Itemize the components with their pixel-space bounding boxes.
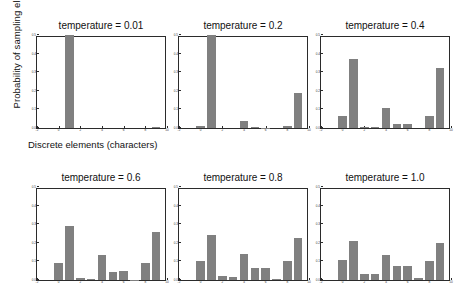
plot-area: 0.00.10.20.30.40.5-20246810: [36, 36, 166, 129]
y-tick-mark: [179, 34, 181, 35]
bar: [425, 261, 434, 280]
x-tick-label: 2: [363, 128, 365, 132]
x-tick-label: 8: [286, 280, 288, 284]
x-tick-mark: [451, 126, 452, 128]
bar: [294, 93, 303, 128]
bar: [425, 116, 434, 128]
bar: [360, 127, 369, 128]
bar-series: [321, 37, 449, 128]
y-axis-label: Probability of sampling element: [11, 0, 22, 109]
bar: [338, 260, 347, 280]
plot-area: 0.00.10.20.30.40.5-20246810: [178, 36, 308, 129]
x-tick-label: 0: [342, 128, 344, 132]
bar: [436, 68, 445, 128]
panel-title: temperature = 0.2: [178, 20, 308, 31]
panel-temperature-0.8: temperature = 0.80.00.10.20.30.40.5-2024…: [178, 172, 308, 281]
bar: [152, 127, 161, 128]
bar: [152, 232, 161, 280]
bar: [283, 261, 292, 280]
bar: [109, 272, 118, 280]
x-tick-label: 2: [221, 280, 223, 284]
bar: [196, 261, 205, 280]
panel-temperature-0.6: temperature = 0.60.00.10.20.30.40.5-2024…: [36, 172, 166, 281]
panel-title: temperature = 0.8: [178, 172, 308, 183]
bar: [218, 276, 227, 280]
y-tick-mark: [179, 186, 181, 187]
x-tick-label: 10: [165, 280, 168, 284]
bar: [119, 271, 128, 280]
x-tick-label: -2: [320, 128, 323, 132]
bar: [65, 226, 74, 280]
bar: [76, 278, 85, 280]
panel-title: temperature = 0.6: [36, 172, 166, 183]
x-tick-mark: [309, 126, 310, 128]
bar: [338, 116, 347, 128]
x-tick-label: 10: [307, 280, 310, 284]
bar: [393, 124, 402, 128]
bar-series: [321, 189, 449, 280]
bar-series: [37, 189, 165, 280]
bar: [54, 263, 63, 280]
panel-temperature-1: temperature = 1.00.00.10.20.30.40.5-2024…: [320, 172, 450, 281]
bar: [349, 241, 358, 280]
plot-area: 0.00.10.20.30.40.5-20246810: [320, 188, 450, 281]
y-tick-mark: [321, 34, 323, 35]
bar: [207, 235, 216, 280]
bar: [436, 243, 445, 280]
x-tick-label: 10: [165, 128, 168, 132]
x-tick-mark: [167, 278, 168, 280]
x-tick-label: 0: [342, 280, 344, 284]
x-tick-label: 6: [123, 280, 125, 284]
x-tick-label: 4: [385, 128, 387, 132]
x-tick-label: -2: [178, 280, 181, 284]
bar-series: [179, 189, 307, 280]
bar: [272, 279, 281, 280]
x-tick-label: -2: [36, 128, 39, 132]
panel-title: temperature = 1.0: [320, 172, 450, 183]
bar: [240, 254, 249, 280]
panel-temperature-0.4: temperature = 0.40.00.10.20.30.40.5-2024…: [320, 20, 450, 129]
bar: [229, 277, 238, 280]
bar: [403, 266, 412, 281]
x-tick-label: 2: [221, 128, 223, 132]
x-tick-label: 0: [200, 128, 202, 132]
bar: [251, 127, 260, 128]
x-tick-label: 4: [101, 128, 103, 132]
bar: [141, 263, 150, 280]
x-tick-label: 6: [123, 128, 125, 132]
bar: [98, 255, 107, 280]
x-tick-label: 4: [243, 280, 245, 284]
bar: [414, 278, 423, 280]
x-tick-label: 4: [101, 280, 103, 284]
bar: [65, 35, 74, 128]
bar-series: [37, 37, 165, 128]
x-tick-label: 0: [200, 280, 202, 284]
x-tick-label: 8: [144, 128, 146, 132]
plot-area: 0.00.10.20.30.40.5-20246810: [178, 188, 308, 281]
x-tick-label: 8: [144, 280, 146, 284]
y-tick-mark: [37, 34, 39, 35]
y-axis-label-container: Probability of sampling element: [0, 18, 22, 138]
bar: [87, 279, 96, 280]
x-tick-label: -2: [178, 128, 181, 132]
x-tick-label: -2: [36, 280, 39, 284]
x-tick-mark: [309, 278, 310, 280]
x-tick-label: 6: [407, 280, 409, 284]
bar: [283, 126, 292, 128]
x-tick-label: 2: [79, 280, 81, 284]
x-tick-label: -2: [320, 280, 323, 284]
x-tick-label: 10: [449, 128, 452, 132]
x-tick-mark: [451, 278, 452, 280]
x-tick-label: 10: [307, 128, 310, 132]
bar: [251, 268, 260, 280]
x-tick-label: 8: [428, 128, 430, 132]
bar: [207, 35, 216, 128]
bar: [349, 59, 358, 128]
bar: [382, 108, 391, 128]
figure-canvas: Probability of sampling element Discrete…: [0, 0, 461, 306]
bar: [261, 268, 270, 280]
x-tick-label: 0: [58, 128, 60, 132]
panel-title: temperature = 0.4: [320, 20, 450, 31]
x-axis-label: Discrete elements (characters): [28, 139, 157, 150]
y-tick-mark: [37, 186, 39, 187]
